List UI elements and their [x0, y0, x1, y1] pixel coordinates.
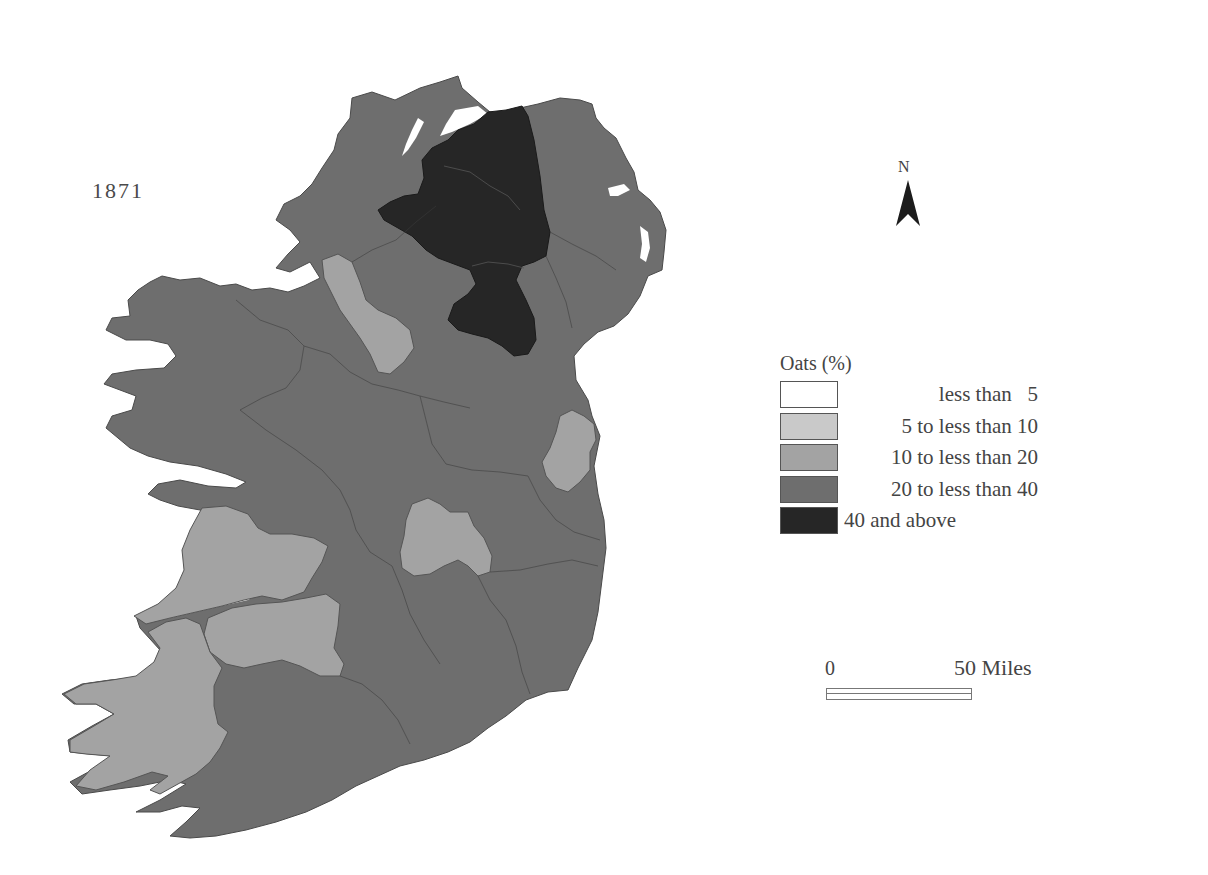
scale-end-label: 50 Miles — [954, 655, 1032, 681]
scale-bar-graphic — [826, 688, 972, 700]
legend-swatch-10-20 — [780, 444, 838, 471]
legend-label: less than 5 — [838, 382, 1038, 407]
legend-swatch-20-40 — [780, 476, 838, 503]
legend-item: 20 to less than 40 — [780, 474, 1050, 506]
legend-swatch-40-plus — [780, 507, 838, 534]
legend-item: less than 5 — [780, 379, 1050, 411]
legend-label: 10 to less than 20 — [838, 445, 1038, 470]
legend-item: 40 and above — [780, 505, 1050, 537]
legend-swatch-lt5 — [780, 381, 838, 408]
legend-label: 20 to less than 40 — [838, 477, 1038, 502]
legend: Oats (%) less than 5 5 to less than 10 1… — [780, 352, 1050, 537]
north-arrow: N — [888, 158, 928, 230]
legend-title: Oats (%) — [780, 352, 1050, 375]
legend-item: 10 to less than 20 — [780, 442, 1050, 474]
legend-label: 40 and above — [838, 508, 1044, 533]
north-arrow-icon — [888, 158, 928, 230]
legend-label: 5 to less than 10 — [838, 414, 1038, 439]
year-label: 1871 — [92, 178, 144, 204]
legend-swatch-5-10 — [780, 413, 838, 440]
region-class-10-to-20-kerry — [64, 618, 228, 794]
scale-start-label: 0 — [825, 657, 835, 680]
legend-item: 5 to less than 10 — [780, 411, 1050, 443]
